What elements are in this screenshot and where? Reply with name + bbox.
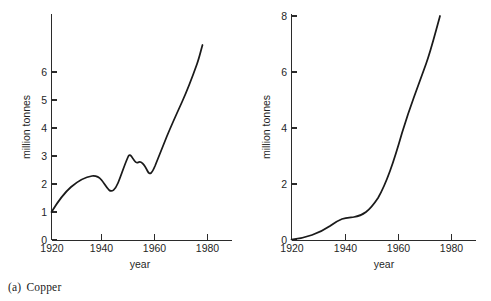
copper-caption-tag: (a) [8,281,21,293]
copper-y-tick-label-1: 1 [41,206,47,218]
copper-data-curve [52,45,203,212]
aluminium-y-tick-label-2: 2 [281,178,287,190]
aluminium-x-tick-label-1980: 1980 [440,242,464,254]
aluminium-y-ticks: 0 2 4 6 8 [281,10,297,246]
aluminium-y-tick-label-4: 4 [281,122,287,134]
aluminium-x-tick-label-1960: 1960 [387,242,411,254]
copper-y-tick-label-3: 3 [41,150,47,162]
aluminium-x-axis-title: year [374,258,395,270]
chart-panel-aluminium: 0 2 4 6 8 1920 1940 1960 1980 million to… [246,0,491,301]
copper-y-ticks: 0 1 2 3 4 5 6 [41,66,57,246]
copper-x-axis-title: year [130,258,151,270]
aluminium-data-curve [292,16,441,240]
copper-plot-area: 0 1 2 3 4 5 6 1920 1940 1960 1980 millio… [0,0,246,275]
aluminium-y-tick-label-8: 8 [281,10,287,22]
copper-caption-label: Copper [26,281,61,293]
copper-y-tick-label-6: 6 [41,66,47,78]
copper-y-tick-label-5: 5 [41,94,47,106]
copper-x-ticks: 1920 1940 1960 1980 [40,234,219,254]
copper-x-tick-label-1960: 1960 [143,242,167,254]
copper-y-tick-label-4: 4 [41,122,47,134]
copper-caption: (a)Copper [8,281,61,293]
two-panel-line-chart-figure: 0 1 2 3 4 5 6 1920 1940 1960 1980 millio… [0,0,491,301]
aluminium-x-tick-label-1940: 1940 [334,242,358,254]
copper-x-tick-label-1940: 1940 [90,242,114,254]
copper-y-tick-label-2: 2 [41,178,47,190]
aluminium-y-axis-title: million tonnes [260,95,272,159]
aluminium-plot-area: 0 2 4 6 8 1920 1940 1960 1980 million to… [246,0,491,275]
aluminium-x-tick-label-1920: 1920 [280,242,304,254]
copper-y-axis-title: million tonnes [20,95,32,159]
copper-x-tick-label-1980: 1980 [196,242,220,254]
copper-x-tick-label-1920: 1920 [40,242,64,254]
aluminium-y-tick-label-6: 6 [281,66,287,78]
chart-panel-copper: 0 1 2 3 4 5 6 1920 1940 1960 1980 millio… [0,0,246,301]
